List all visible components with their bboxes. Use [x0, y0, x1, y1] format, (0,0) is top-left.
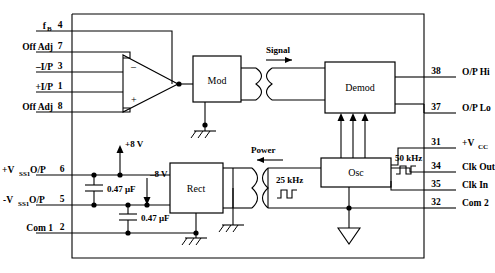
pin-suffix-vss1-pos: O/P	[30, 165, 46, 175]
osc-block: Osc	[321, 158, 391, 187]
pin-number-34: 34	[431, 161, 441, 171]
amp-inverting-label: –	[130, 61, 137, 72]
pin-label-pos-ip: +I/P	[35, 82, 53, 92]
power-transformer: Power	[219, 145, 321, 232]
pin-number-5: 5	[60, 194, 65, 204]
pin-label-clk-out: Clk Out	[462, 162, 495, 172]
capacitor-1-label: 0.47 μF	[107, 184, 136, 194]
osc-clkout-wiring	[391, 168, 424, 172]
volt-plus8-label: +8 V	[125, 139, 144, 149]
junction-dot-osc-gnd	[346, 205, 351, 210]
pin-number-32: 32	[431, 197, 441, 207]
pin-number-4: 4	[58, 20, 63, 30]
pin-number-1: 1	[58, 81, 63, 91]
diagram-canvas: f B 4 Off Adj 7 –I/P 3 +I/P 1 Off Adj 8 …	[0, 0, 495, 273]
pin-sublabel-fb: B	[47, 25, 52, 33]
capacitor-2-label: 0.47 μF	[141, 213, 170, 223]
pin-number-7: 7	[58, 41, 63, 51]
osc-block-label: Osc	[348, 167, 364, 178]
right-pin-labels: 38 O/P Hi 37 O/P Lo 31 +V CC 34 Clk Out …	[431, 66, 495, 208]
pin-number-35: 35	[431, 179, 441, 189]
junction-dot-plus8	[117, 172, 122, 177]
volt-plus8-arrow	[117, 145, 124, 153]
osc-to-demod-arrows	[338, 113, 369, 158]
signal-arrow-head	[285, 57, 292, 63]
pin-number-3: 3	[58, 61, 63, 71]
pin-number-31: 31	[431, 137, 441, 147]
freq-25khz-label: 25 kHz	[276, 175, 303, 185]
pin-label-vcc: +V	[462, 138, 474, 148]
capacitor-1: 0.47 μF	[85, 172, 136, 207]
pin-number-2: 2	[60, 222, 65, 232]
mod-ground	[191, 102, 216, 138]
pin-label-op-lo: O/P Lo	[462, 103, 491, 113]
pin-number-38: 38	[431, 66, 441, 76]
pin-number-8: 8	[58, 101, 63, 111]
osc-clkin-wiring	[391, 181, 424, 190]
pin-label-offadj-7: Off Adj	[22, 42, 53, 52]
capacitor-2: 0.47 μF	[119, 202, 170, 235]
amp-noninverting-label: +	[131, 94, 137, 105]
junction-dot-minus8	[144, 202, 149, 207]
pin-label-neg-ip: –I/P	[35, 62, 53, 72]
demod-block-label: Demod	[345, 82, 374, 93]
volt-plus8-marker: +8 V	[117, 139, 144, 178]
pin-suffix-vss1-neg: O/P	[29, 195, 45, 205]
pin-label-com2: Com 2	[462, 198, 489, 208]
freq-50khz-label: 50 kHz	[395, 153, 422, 163]
pin-label-op-hi: O/P Hi	[462, 67, 490, 77]
pin-sublabel-vcc: CC	[478, 143, 488, 151]
pin-label-com1: Com 1	[26, 223, 53, 233]
pin-number-37: 37	[431, 102, 441, 112]
power-annotation: Power	[251, 145, 276, 155]
volt-minus8-label: –8 V	[149, 169, 168, 179]
mod-block-label: Mod	[208, 75, 227, 86]
amplifier-input-wiring	[72, 31, 172, 112]
pin-number-6: 6	[60, 164, 65, 174]
pin-label-vss1-pos: +V	[2, 165, 14, 175]
amplifier-output-node	[176, 81, 193, 86]
signal-annotation: Signal	[266, 45, 291, 55]
power-arrow-head	[257, 157, 264, 163]
circuit-diagram: f B 4 Off Adj 7 –I/P 3 +I/P 1 Off Adj 8 …	[0, 0, 495, 273]
amplifier-symbol: – +	[123, 55, 178, 112]
freq-50khz-annotation: 50 kHz	[395, 153, 422, 174]
chip-boundary	[72, 14, 424, 258]
rect-block-label: Rect	[187, 183, 206, 194]
pin-label-vss1-neg: -V	[3, 195, 13, 205]
junction-dot-amp-out	[176, 81, 181, 86]
demod-block: Demod	[325, 62, 424, 113]
pin-label-clk-in: Clk In	[462, 180, 489, 190]
signal-transformer: Signal	[241, 45, 325, 100]
mod-block: Mod	[193, 56, 241, 102]
freq-25khz-annotation: 25 kHz	[276, 175, 303, 198]
osc-ground	[338, 187, 360, 244]
pin-label-offadj-8: Off Adj	[22, 102, 53, 112]
